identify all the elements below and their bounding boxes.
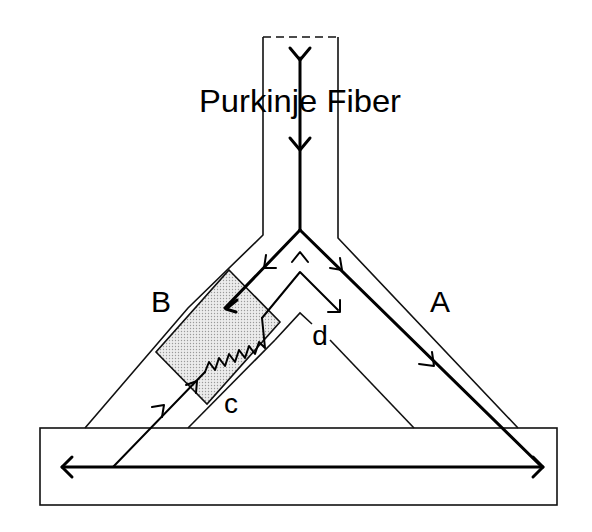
branch-b-conduction-line: [225, 230, 300, 308]
retrograde-path: [113, 372, 205, 467]
point-d-label: d: [312, 320, 328, 351]
apex-arrow-up-icon: [292, 252, 308, 262]
c-arrow-lower-icon: [152, 405, 164, 417]
branch-a-conduction-line: [300, 230, 542, 467]
branch-a-label: A: [430, 285, 450, 318]
trunk-top-fork: [290, 48, 310, 60]
fiber-inner-apex: [275, 313, 312, 340]
point-c-label: c: [224, 388, 238, 419]
title-label: Purkinje Fiber: [199, 83, 401, 119]
retrograde-path-apex: [262, 272, 338, 318]
reentry-diagram: Purkinje Fiber B A c d: [0, 0, 592, 532]
depressed-zone: [156, 270, 280, 404]
fiber-inner-right: [330, 340, 414, 428]
branch-b-label: B: [151, 285, 171, 318]
